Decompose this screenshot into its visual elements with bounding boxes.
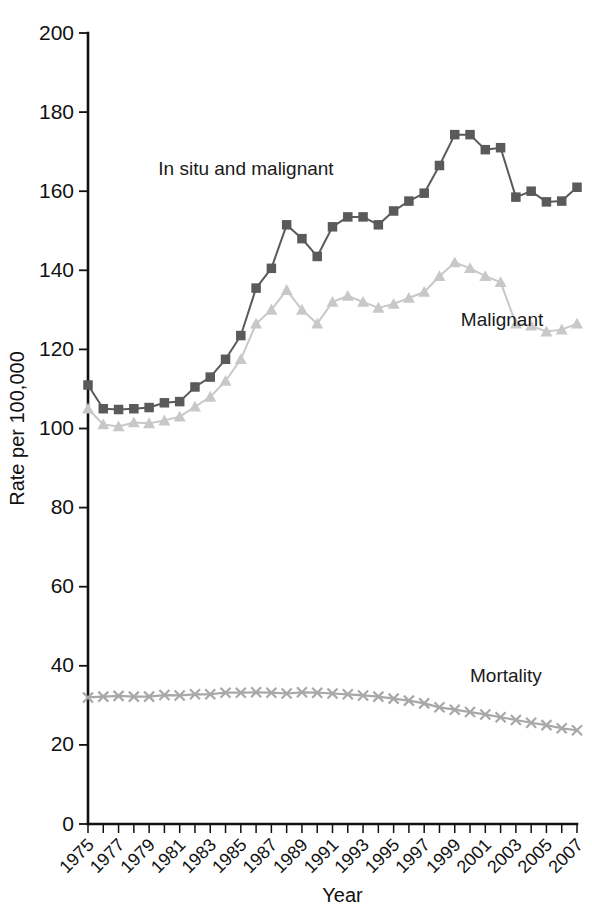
series-0-point-11 [251, 283, 261, 293]
series-0-point-28 [511, 192, 521, 202]
series-0-point-6 [175, 397, 185, 407]
y-axis-title: Rate per 100,000 [6, 351, 28, 506]
y-tick-label-40: 40 [51, 653, 74, 676]
series-label-malignant: Malignant [461, 309, 544, 330]
y-tick-label-60: 60 [51, 574, 74, 597]
y-tick-label-140: 140 [39, 258, 74, 281]
y-tick-label-100: 100 [39, 416, 74, 439]
series-0-point-20 [389, 206, 399, 216]
series-0-point-26 [481, 145, 491, 155]
y-tick-label-160: 160 [39, 179, 74, 202]
series-0-point-14 [297, 234, 307, 244]
series-0-point-9 [221, 355, 231, 365]
series-0-point-15 [312, 252, 322, 262]
series-0-point-31 [557, 196, 567, 206]
series-0-point-5 [160, 398, 170, 408]
series-0-point-4 [144, 403, 154, 413]
series-label-in-situ-and-malignant: In situ and malignant [158, 158, 334, 179]
series-0-point-24 [450, 130, 460, 140]
series-0-point-0 [83, 380, 93, 390]
series-0-point-13 [282, 220, 292, 230]
series-0-point-30 [542, 197, 552, 207]
series-0-point-16 [328, 222, 338, 232]
series-label-mortality: Mortality [470, 665, 542, 686]
y-tick-label-200: 200 [39, 21, 74, 44]
series-0-point-10 [236, 331, 246, 341]
y-tick-label-80: 80 [51, 495, 74, 518]
y-tick-label-0: 0 [62, 812, 74, 835]
series-0-point-18 [358, 212, 368, 222]
series-0-point-2 [114, 405, 124, 415]
series-0-point-19 [374, 220, 384, 230]
series-0-point-17 [343, 212, 353, 222]
series-0-point-7 [190, 382, 200, 392]
rate-per-100000-line-chart: 020406080100120140160180200 197519771979… [0, 0, 592, 916]
chart-figure: 020406080100120140160180200 197519771979… [0, 0, 592, 916]
series-0-point-23 [435, 161, 445, 171]
series-0-point-32 [572, 182, 582, 192]
series-0-point-8 [206, 372, 216, 382]
series-0-point-12 [267, 264, 277, 274]
series-0-point-29 [526, 186, 536, 196]
series-0-point-27 [496, 143, 506, 153]
series-0-point-22 [419, 188, 429, 198]
y-tick-label-120: 120 [39, 337, 74, 360]
x-axis-title: Year [322, 884, 363, 906]
y-tick-label-180: 180 [39, 100, 74, 123]
series-0-point-21 [404, 196, 414, 206]
series-0-point-25 [465, 130, 475, 140]
series-0-point-1 [99, 404, 109, 414]
y-tick-label-20: 20 [51, 732, 74, 755]
series-0-point-3 [129, 404, 139, 414]
